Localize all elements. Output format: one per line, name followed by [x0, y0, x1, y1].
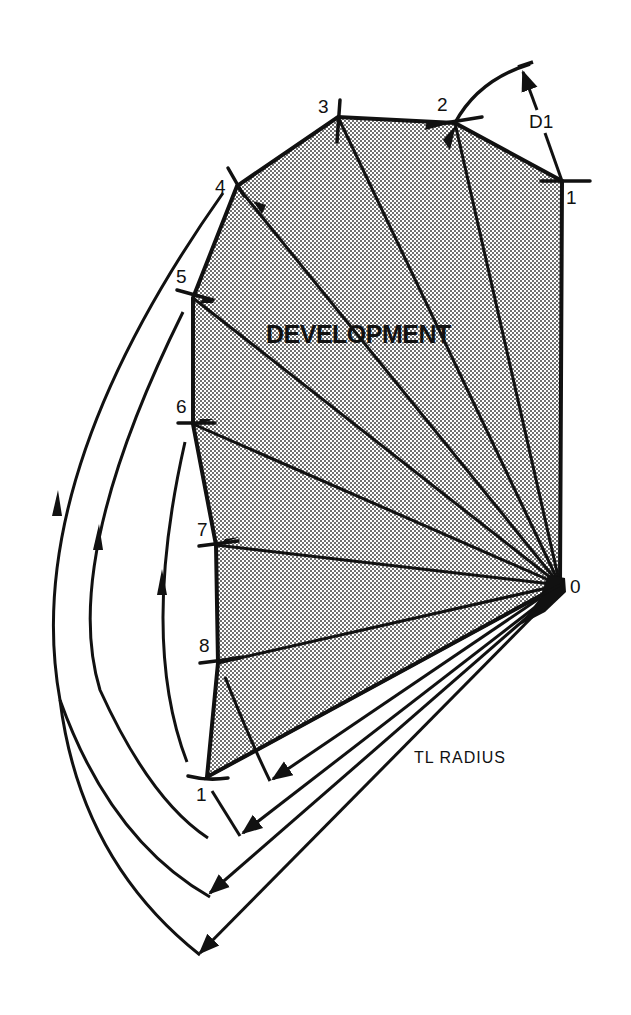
vertex-label-4: 4 [215, 177, 226, 196]
vertex-label-6: 6 [176, 397, 187, 416]
vertex-label-1-top: 1 [566, 188, 577, 207]
d1-arc-end-tick [518, 62, 533, 67]
vertex-label-3: 3 [318, 97, 329, 116]
vertex-label-2: 2 [437, 95, 448, 114]
vertex-label-8: 8 [199, 636, 210, 655]
vertex-label-5: 5 [176, 267, 187, 286]
development-diagram [0, 0, 631, 1015]
d1-arc [455, 64, 530, 123]
vertex-label-1-bottom: 1 [196, 785, 207, 804]
d1-dimension-line-upper [523, 72, 537, 110]
d1-angle-label: D1 [529, 112, 553, 131]
vertex-label-7: 7 [197, 520, 208, 539]
bottom-drop-line [212, 791, 240, 836]
development-title: DEVELOPMENT [266, 322, 451, 347]
apex-label-0: 0 [570, 577, 581, 596]
tl-radius-label: TL RADIUS [414, 750, 506, 766]
